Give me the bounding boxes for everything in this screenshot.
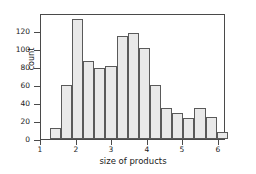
histogram-bar [139,48,150,139]
x-tick-label: 4 [137,145,157,155]
histogram-bar [217,132,228,139]
y-tick-label: 0 [2,136,30,144]
histogram-bar [94,68,105,139]
histogram-bar [128,33,139,139]
histogram-bar [50,128,61,139]
y-tick-label: 60 [2,82,30,90]
x-tick-label: 3 [101,145,121,155]
x-tick-label: 1 [30,145,50,155]
histogram-bar [117,36,128,139]
x-tick-label: 5 [172,145,192,155]
histogram-bar [83,61,94,139]
y-tick-label: 100 [2,46,30,54]
histogram-bars [41,15,224,139]
y-tick-label: 20 [2,118,30,126]
histogram-bar [161,108,172,140]
y-tick-label: 120 [2,28,30,36]
x-axis-title: size of products [40,156,226,166]
histogram-bar [72,19,83,139]
histogram-figure: count 020406080100120 123456 size of pro… [0,0,256,174]
y-tick-label: 80 [2,64,30,72]
x-tick-label: 2 [66,145,86,155]
histogram-bar [206,117,217,139]
y-axis-title: count [25,31,39,87]
histogram-bar [61,85,72,139]
x-tick-label: 6 [208,145,228,155]
y-tick-label: 40 [2,100,30,108]
histogram-bar [150,85,161,139]
histogram-bar [105,66,116,139]
plot-area [40,14,225,140]
histogram-bar [172,113,183,139]
histogram-bar [183,118,194,139]
histogram-bar [194,108,205,140]
